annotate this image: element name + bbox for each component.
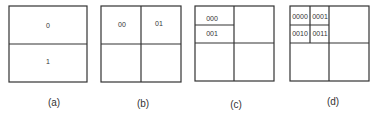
panel-b: 00 01 (b) [101, 6, 181, 109]
cell-label: 0000 [292, 13, 308, 20]
cell-label: 0010 [292, 30, 308, 37]
panel-caption: (d) [327, 96, 339, 107]
panel-caption: (b) [137, 98, 149, 109]
cell-label: 01 [155, 20, 163, 27]
cell-label: 0 [46, 22, 50, 29]
cell-label: 000 [206, 15, 218, 22]
cell-label: 00 [118, 21, 126, 28]
panel-caption: (a) [48, 97, 60, 108]
cell-label: 001 [206, 30, 218, 37]
panel-a: 0 1 (a) [9, 6, 87, 108]
panel-c: 000 001 (c) [195, 6, 274, 110]
panel-d: 0000 0001 0010 0011 (d) [290, 6, 369, 107]
cell-label: 0001 [312, 13, 328, 20]
cell-label: 1 [46, 58, 50, 65]
cell-label: 0011 [312, 30, 327, 37]
quadtree-partition-diagram: 0 1 (a) 00 01 (b) 000 001 (c) 0000 0001 … [0, 0, 374, 119]
panel-caption: (c) [230, 99, 242, 110]
